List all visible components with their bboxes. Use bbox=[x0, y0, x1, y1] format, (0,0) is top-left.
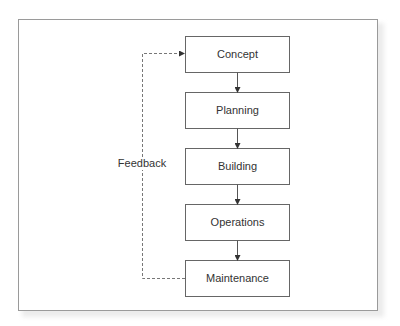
stage-concept: Concept bbox=[186, 37, 290, 73]
stage-label: Concept bbox=[217, 48, 258, 60]
stage-label: Maintenance bbox=[206, 272, 269, 284]
feedback-label: Feedback bbox=[118, 157, 167, 169]
feedback-line-lower bbox=[143, 170, 186, 279]
stage-planning: Planning bbox=[186, 93, 290, 129]
stage-maintenance: Maintenance bbox=[186, 261, 290, 297]
lifecycle-diagram: Concept Planning Building Operations Mai… bbox=[0, 0, 400, 326]
stage-building: Building bbox=[186, 149, 290, 185]
feedback-line-upper bbox=[143, 54, 185, 158]
stage-label: Operations bbox=[211, 216, 265, 228]
stage-label: Building bbox=[218, 160, 257, 172]
feedback-loop: Feedback bbox=[118, 54, 185, 279]
stage-label: Planning bbox=[216, 104, 259, 116]
stage-operations: Operations bbox=[186, 205, 290, 241]
